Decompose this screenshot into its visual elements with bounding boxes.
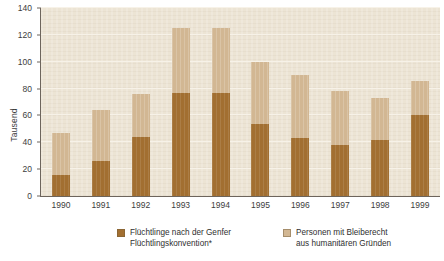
y-axis-tick-label: 120	[0, 31, 32, 39]
bar-segment-convention	[371, 140, 389, 196]
bar-group	[371, 98, 389, 196]
bar-segment-convention	[251, 124, 269, 197]
bar-segment-convention	[52, 175, 70, 196]
x-axis-tick-label: 1993	[161, 200, 201, 210]
x-axis-tick-label: 1991	[81, 200, 121, 210]
x-axis-tick-label: 1995	[240, 200, 280, 210]
y-axis-tick-label: 0	[0, 192, 32, 200]
y-axis-tick-label: 140	[0, 4, 32, 12]
bar-group	[52, 133, 70, 196]
bar-segment-humanitarian	[371, 98, 389, 140]
y-axis-tick-label: 60	[0, 111, 32, 119]
x-axis-line	[40, 196, 440, 197]
x-axis-tick-label: 1992	[121, 200, 161, 210]
legend-label: Personen mit Bleiberecht aus humanitären…	[296, 228, 391, 249]
bar-group	[331, 91, 349, 196]
plot-area	[41, 8, 440, 196]
x-axis-tick-label: 1990	[41, 200, 81, 210]
x-axis-tick-labels: 1990199119921993199419951996199719981999	[41, 200, 440, 216]
bar-segment-convention	[411, 115, 429, 196]
x-axis-tick-label: 1996	[280, 200, 320, 210]
legend-label: Flüchtlinge nach der Genfer Flüchtlingsk…	[130, 228, 231, 249]
legend-swatch-light	[283, 229, 291, 237]
chart-legend: Flüchtlinge nach der Genfer Flüchtlingsk…	[0, 226, 444, 261]
bar-segment-humanitarian	[132, 94, 150, 137]
bar-segment-convention	[331, 145, 349, 196]
x-axis-tick-label: 1998	[360, 200, 400, 210]
bar-segment-humanitarian	[172, 28, 190, 92]
bar-segment-convention	[212, 93, 230, 196]
bar-segment-convention	[172, 93, 190, 196]
bar-group	[212, 28, 230, 196]
legend-item: Personen mit Bleiberecht aus humanitären…	[283, 228, 391, 249]
bar-segment-humanitarian	[331, 91, 349, 145]
bar-segment-humanitarian	[251, 62, 269, 124]
bar-segment-convention	[132, 137, 150, 196]
bar-group	[291, 75, 309, 196]
x-axis-tick-label: 1997	[320, 200, 360, 210]
y-axis-tick-label: 100	[0, 58, 32, 66]
bar-segment-humanitarian	[52, 133, 70, 175]
bar-group	[172, 28, 190, 196]
bar-segment-humanitarian	[212, 28, 230, 92]
refugee-stacked-bar-chart: Tausend 020406080100120140 1990199119921…	[0, 0, 444, 261]
bar-segment-convention	[92, 161, 110, 196]
legend-item: Flüchtlinge nach der Genfer Flüchtlingsk…	[117, 228, 231, 249]
x-axis-tick-label: 1999	[400, 200, 440, 210]
y-axis-line	[40, 8, 41, 197]
bar-segment-humanitarian	[291, 75, 309, 138]
bars-layer	[41, 8, 440, 196]
legend-swatch-dark	[117, 229, 125, 237]
y-axis-tick-labels: 020406080100120140	[0, 0, 36, 200]
bar-group	[411, 81, 429, 196]
y-axis-tick-label: 80	[0, 85, 32, 93]
bar-segment-humanitarian	[411, 81, 429, 116]
bar-group	[251, 62, 269, 196]
bar-group	[92, 110, 110, 196]
x-axis-tick-label: 1994	[201, 200, 241, 210]
bar-group	[132, 94, 150, 196]
y-axis-tick-label: 40	[0, 138, 32, 146]
bar-segment-humanitarian	[92, 110, 110, 161]
bar-segment-convention	[291, 138, 309, 196]
y-axis-tick-label: 20	[0, 165, 32, 173]
